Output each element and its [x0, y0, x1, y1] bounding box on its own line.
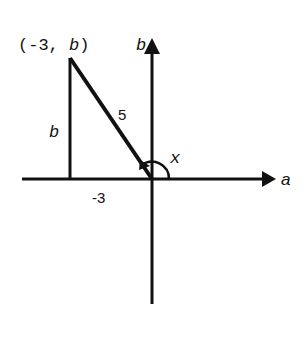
- horizontal-axis-arrow-icon: [262, 171, 276, 187]
- horizontal-leg-label: -3: [92, 189, 105, 206]
- vertical-axis-arrow-icon: [144, 38, 160, 54]
- hypotenuse-label: 5: [118, 106, 126, 123]
- horizontal-axis-label: a: [281, 170, 290, 189]
- triangle-hypotenuse: [70, 58, 152, 179]
- coordinate-diagram: (-3, b) b a 5 b -3 x: [0, 0, 307, 347]
- vertical-axis-label: b: [136, 36, 146, 55]
- vertical-leg-label: b: [49, 123, 59, 142]
- angle-label: x: [169, 149, 181, 168]
- point-label: (-3, b): [18, 36, 89, 55]
